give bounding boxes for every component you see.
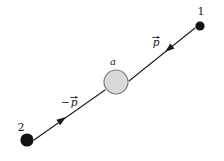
momentum-in-sign-label: − bbox=[61, 96, 70, 108]
particle-1-label: 1 bbox=[198, 5, 205, 18]
momentum-out-label-group: p bbox=[152, 36, 160, 48]
particle-1-dot bbox=[195, 21, 204, 30]
target-particle-a bbox=[104, 70, 128, 94]
particle-2-dot bbox=[20, 133, 33, 146]
target-particle-label: a bbox=[110, 56, 116, 67]
momentum-diagram: 1 2 a p − p bbox=[0, 0, 224, 161]
particle-2-label: 2 bbox=[18, 121, 25, 134]
momentum-in-label-group: − p bbox=[61, 96, 78, 108]
physics-diagram-canvas: 1 2 a p − p bbox=[0, 0, 224, 161]
